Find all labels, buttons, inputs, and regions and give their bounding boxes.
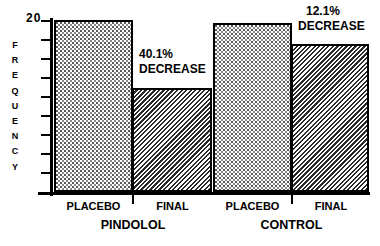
y-axis-tick [41, 134, 53, 136]
y-axis-line [50, 18, 53, 196]
x-axis-label-pindolol-final: FINAL [133, 200, 212, 212]
y-axis-tick [41, 77, 53, 79]
y-axis-tick [41, 172, 53, 174]
annotation-pindolol-decrease: 40.1% DECREASE [139, 47, 206, 77]
y-axis-tick [41, 58, 53, 60]
x-axis-label-pindolol-placebo: PLACEBO [54, 200, 133, 212]
bar-control-placebo [213, 23, 292, 192]
group-label-control: CONTROL [213, 218, 370, 232]
y-axis-title-letter: Q [6, 84, 24, 99]
y-axis-title-letter: E [6, 114, 24, 129]
x-axis-label-control-placebo: PLACEBO [213, 200, 292, 212]
bar-control-final [291, 44, 369, 192]
y-axis-tick [41, 20, 53, 22]
y-axis-title-letter: C [6, 144, 24, 159]
bar-pindolol-placebo [54, 20, 133, 192]
y-axis-tick [41, 115, 53, 117]
y-axis-tick [41, 39, 53, 41]
y-axis-tick [41, 153, 53, 155]
y-axis-title-letter: U [6, 99, 24, 114]
group-label-pindolol: PINDOLOL [54, 218, 212, 232]
y-axis-tick-label-20: 20 [26, 11, 41, 25]
y-axis-title-letter: R [6, 53, 24, 68]
y-axis-title: F R E Q U E N C Y [6, 38, 24, 175]
y-axis-title-letter: N [6, 129, 24, 144]
annotation-pindolol-percent: 40.1% [139, 47, 206, 62]
y-axis-title-letter: F [6, 38, 24, 53]
y-axis-title-letter: Y [6, 160, 24, 175]
annotation-control-percent: 12.1% [298, 4, 365, 19]
annotation-control-word: DECREASE [298, 19, 365, 34]
annotation-control-decrease: 12.1% DECREASE [298, 4, 365, 34]
x-axis-line [38, 192, 370, 195]
y-axis-tick [41, 96, 53, 98]
bar-pindolol-final [132, 88, 212, 192]
x-axis-label-control-final: FINAL [292, 200, 370, 212]
annotation-pindolol-word: DECREASE [139, 62, 206, 77]
bar-chart: F R E Q U E N C Y 20 40.1% DECREASE 12.1… [0, 0, 380, 246]
y-axis-title-letter: E [6, 68, 24, 83]
